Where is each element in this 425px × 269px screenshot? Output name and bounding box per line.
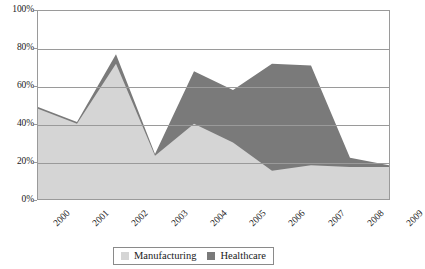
- x-axis: 2000200120022003200420052006200720082009: [0, 200, 405, 245]
- legend-swatch-icon: [207, 252, 215, 260]
- x-axis-tick-label: 2006: [287, 208, 307, 228]
- y-axis-tick-label: 100%: [1, 5, 34, 15]
- y-axis-tick-label: 80%: [1, 43, 34, 53]
- legend-label: Manufacturing: [134, 250, 196, 261]
- x-axis-tick-label: 2005: [248, 208, 268, 228]
- gridline-60: [38, 87, 389, 88]
- y-axis-tick-label: 40%: [1, 119, 34, 129]
- x-axis-tick-label: 2002: [130, 208, 150, 228]
- gridline-80: [38, 49, 389, 50]
- x-axis-tick-label: 2001: [91, 208, 111, 228]
- gridline-20: [38, 163, 389, 164]
- x-axis-tick-label: 2003: [169, 208, 189, 228]
- x-axis-tick-label: 2008: [365, 208, 385, 228]
- x-axis-tick-label: 2009: [404, 208, 424, 228]
- legend-label: Healthcare: [220, 250, 265, 261]
- y-axis: 0%20%40%60%80%100%: [0, 0, 34, 210]
- area-series-group: [38, 11, 389, 199]
- y-axis-tick-label: 60%: [1, 81, 34, 91]
- legend-item[interactable]: Healthcare: [207, 250, 265, 261]
- gridline-40: [38, 125, 389, 126]
- chart-legend: ManufacturingHealthcare: [113, 247, 274, 265]
- x-axis-tick-label: 2004: [208, 208, 228, 228]
- x-axis-tick-label: 2007: [326, 208, 346, 228]
- plot-area: [37, 10, 390, 200]
- y-axis-tick-label: 20%: [1, 157, 34, 167]
- legend-swatch-icon: [121, 252, 129, 260]
- legend-item[interactable]: Manufacturing: [121, 250, 196, 261]
- x-axis-tick-label: 2000: [51, 208, 71, 228]
